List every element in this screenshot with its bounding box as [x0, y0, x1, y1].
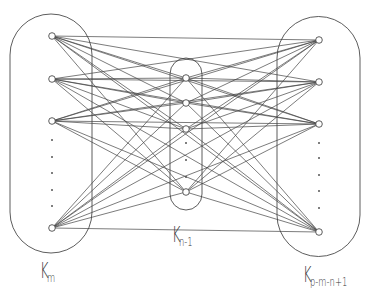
edge	[186, 124, 319, 129]
vertex	[316, 121, 323, 128]
vertex	[49, 118, 56, 125]
edge	[52, 79, 186, 192]
edge	[186, 129, 319, 232]
ellipsis-dot	[318, 157, 320, 159]
ellipsis-dot	[51, 139, 53, 141]
label-right-clique: Kp-m-n+1	[303, 264, 364, 288]
edge	[52, 121, 186, 192]
ellipsis-dot	[185, 159, 187, 161]
edge	[52, 192, 186, 228]
edge	[186, 124, 319, 192]
edge	[52, 78, 186, 79]
edge	[186, 192, 319, 232]
ellipsis-dot	[51, 189, 53, 191]
edge	[186, 40, 319, 78]
graph-diagram	[0, 0, 366, 295]
edge	[52, 129, 186, 228]
label-left-clique: Km	[40, 260, 59, 284]
right-clique-boundary	[277, 16, 360, 256]
vertex	[49, 33, 56, 40]
vertex	[183, 100, 190, 107]
ellipsis-dot	[318, 207, 320, 209]
vertex	[183, 75, 190, 82]
ellipsis-dot	[318, 174, 320, 176]
ellipsis-dot	[185, 176, 187, 178]
ellipsis-dot	[51, 156, 53, 158]
ellipsis-dot	[318, 142, 320, 144]
vertex	[316, 229, 323, 236]
ellipsis-dot	[51, 172, 53, 174]
label-middle-clique: Kn-1	[172, 224, 199, 248]
edge	[186, 103, 319, 124]
vertex	[49, 76, 56, 83]
vertex	[316, 79, 323, 86]
edge	[186, 82, 319, 129]
vertex	[49, 225, 56, 232]
ellipsis-dot	[185, 142, 187, 144]
edge	[52, 36, 319, 40]
vertex	[316, 37, 323, 44]
ellipsis-dot	[318, 190, 320, 192]
ellipsis-dot	[51, 205, 53, 207]
vertex	[183, 126, 190, 133]
vertex	[183, 189, 190, 196]
